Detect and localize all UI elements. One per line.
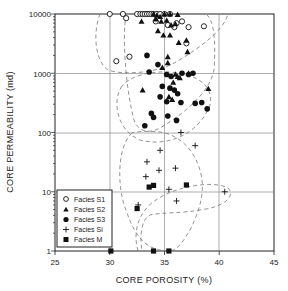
filled-triangle-marker bbox=[183, 37, 189, 42]
filled-circle-marker bbox=[142, 123, 148, 129]
filled-circle-marker bbox=[164, 99, 170, 105]
x-tick-25: 25 bbox=[51, 258, 60, 267]
filled-square-marker bbox=[135, 206, 140, 211]
open-circle-marker bbox=[179, 19, 184, 24]
plus-marker bbox=[156, 167, 162, 173]
envelope-s2 bbox=[124, 14, 214, 131]
filled-circle-marker bbox=[178, 100, 184, 106]
filled-square-marker bbox=[184, 182, 189, 187]
legend-label-s3: Facies S3 bbox=[74, 216, 105, 223]
filled-triangle-marker bbox=[160, 32, 166, 37]
filled-triangle-marker bbox=[165, 60, 171, 65]
open-circle-marker bbox=[186, 25, 191, 30]
filled-triangle-marker bbox=[165, 54, 171, 59]
data-points bbox=[107, 11, 228, 254]
filled-square-marker bbox=[151, 248, 156, 253]
x-tick-labels: 25 30 35 40 45 bbox=[51, 258, 279, 267]
filled-triangle-marker bbox=[170, 79, 176, 84]
x-tick-45: 45 bbox=[270, 258, 279, 267]
x-ticks bbox=[55, 251, 274, 255]
filled-square-icon bbox=[64, 237, 69, 242]
filled-triangle-marker bbox=[184, 49, 190, 54]
filled-circle-marker bbox=[179, 70, 185, 76]
x-tick-40: 40 bbox=[215, 258, 224, 267]
plus-marker bbox=[192, 143, 198, 149]
filled-triangle-marker bbox=[140, 87, 146, 92]
filled-triangle-marker bbox=[158, 18, 164, 23]
filled-square-marker bbox=[151, 183, 156, 188]
filled-triangle-marker bbox=[155, 28, 161, 33]
open-circle-marker bbox=[127, 54, 132, 59]
open-circle-marker bbox=[107, 11, 112, 16]
plus-marker bbox=[157, 147, 163, 153]
x-tick-30: 30 bbox=[106, 258, 115, 267]
filled-triangle-marker bbox=[176, 40, 182, 45]
legend-label-s1: Facies S1 bbox=[74, 196, 105, 203]
y-tick-100: 100 bbox=[38, 129, 52, 138]
open-circle-icon bbox=[64, 197, 69, 202]
open-circle-marker bbox=[124, 16, 129, 21]
facies-envelopes bbox=[96, 14, 231, 251]
filled-circle-icon bbox=[63, 217, 68, 222]
plus-marker bbox=[222, 189, 228, 195]
y-tick-10000: 10000 bbox=[29, 10, 52, 19]
filled-circle-marker bbox=[144, 53, 150, 59]
filled-circle-marker bbox=[151, 115, 157, 121]
open-circle-marker bbox=[201, 24, 206, 29]
y-tick-1000: 1000 bbox=[33, 70, 51, 79]
legend-label-m: Facies M bbox=[74, 236, 103, 243]
legend-label-s2: Facies S2 bbox=[74, 206, 105, 213]
filled-circle-marker bbox=[175, 91, 181, 97]
filled-triangle-marker bbox=[139, 18, 145, 23]
filled-circle-marker bbox=[204, 106, 210, 112]
filled-circle-marker bbox=[192, 101, 198, 107]
x-axis-title: CORE POROSITY (%) bbox=[116, 275, 212, 285]
filled-triangle-marker bbox=[166, 94, 172, 99]
plus-marker bbox=[144, 159, 150, 165]
plus-marker bbox=[172, 165, 178, 171]
filled-circle-marker bbox=[155, 62, 161, 68]
y-tick-labels: 10000 1000 100 10 1 bbox=[29, 10, 52, 256]
filled-square-marker bbox=[108, 248, 113, 253]
filled-circle-marker bbox=[160, 84, 166, 90]
y-axis-title: CORE PERMEABILITY (md) bbox=[5, 71, 15, 192]
plus-marker bbox=[174, 198, 180, 204]
x-tick-35: 35 bbox=[160, 258, 169, 267]
filled-square-marker bbox=[166, 248, 171, 253]
plus-marker bbox=[178, 130, 184, 136]
y-minor-ticks bbox=[51, 14, 55, 251]
plus-marker bbox=[166, 186, 172, 192]
filled-triangle-marker bbox=[167, 32, 173, 37]
filled-circle-marker bbox=[190, 70, 196, 76]
filled-circle-marker bbox=[157, 94, 163, 100]
filled-circle-marker bbox=[174, 118, 180, 124]
filled-circle-marker bbox=[165, 113, 171, 119]
filled-circle-marker bbox=[146, 69, 152, 75]
legend-label-si: Facies Si bbox=[74, 226, 103, 233]
envelope-si bbox=[120, 131, 203, 251]
y-tick-10: 10 bbox=[42, 188, 51, 197]
scatter-chart: 10000 1000 100 10 1 25 30 35 40 45 CORE … bbox=[0, 0, 288, 291]
open-circle-marker bbox=[114, 59, 119, 64]
y-tick-1: 1 bbox=[47, 247, 52, 256]
legend: Facies S1 Facies S2 Facies S3 Facies Si … bbox=[57, 190, 112, 247]
plus-marker bbox=[143, 174, 149, 180]
filled-circle-marker bbox=[168, 74, 174, 80]
filled-circle-marker bbox=[199, 100, 205, 106]
